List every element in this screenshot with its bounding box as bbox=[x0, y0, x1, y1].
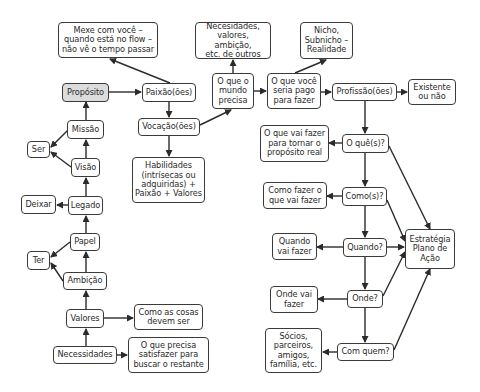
node-o-que-vai-fazer: O que vai fazer para tornar o propósito … bbox=[260, 125, 329, 162]
node-legado: Legado bbox=[68, 196, 103, 215]
node-mexe-com-voce: Mexe com você – quando está no flow – nã… bbox=[58, 22, 158, 58]
node-nicho: Nicho, Subnicho – Realidade bbox=[300, 22, 353, 59]
node-necesidades-outros: Necesidades, valores, ambição, etc. de o… bbox=[195, 22, 271, 59]
node-deixar: Deixar bbox=[21, 195, 56, 214]
node-vocacao: Vocação(ões) bbox=[138, 118, 200, 136]
node-como-as-cosas: Como as cosas devem ser bbox=[134, 304, 203, 330]
node-paixao: Paixão(ões) bbox=[142, 83, 196, 102]
node-existente: Existente ou não bbox=[408, 79, 456, 105]
node-missao: Missão bbox=[67, 120, 104, 139]
node-onde-vai-fazer: Onde vai fazer bbox=[270, 286, 318, 313]
node-como-fazer: Como fazer o que vai fazer bbox=[263, 182, 327, 209]
node-com-quem: Com quem? bbox=[337, 343, 394, 361]
node-visao: Visão bbox=[71, 158, 100, 177]
node-ambicao: Ambição bbox=[63, 272, 107, 290]
node-estrategia: Estratégia Plano de Ação bbox=[405, 229, 455, 269]
node-necessidades: Necessidades bbox=[53, 346, 117, 364]
node-profissao: Profissão(ões) bbox=[332, 83, 397, 101]
node-oques: O quê(s)? bbox=[342, 134, 389, 153]
node-habilidades: Habilidades (intrísecas ou adquiridas) +… bbox=[132, 157, 205, 203]
node-valores: Valores bbox=[66, 309, 104, 328]
node-quando: Quando? bbox=[343, 238, 387, 257]
node-papel: Papel bbox=[70, 233, 100, 251]
purpose-mind-map: Mexe com você – quando está no flow – nã… bbox=[0, 0, 480, 392]
node-socios: Sócios, parceiros, amigos, família, etc. bbox=[265, 328, 322, 373]
node-satisfazer: O que precisa satisfazer para buscar o r… bbox=[128, 337, 209, 373]
node-ser: Ser bbox=[27, 141, 50, 158]
node-mundo-precisa: O que o mundo precisa bbox=[212, 73, 254, 109]
node-onde: Onde? bbox=[347, 290, 383, 308]
node-proposito: Propósito bbox=[62, 83, 109, 102]
node-comos: Como(s)? bbox=[342, 187, 387, 206]
node-ter: Ter bbox=[27, 251, 50, 270]
node-pago-para-fazer: O que você seria pago para fazer bbox=[267, 73, 321, 109]
node-quando-vai-fazer: Quando vai fazer bbox=[272, 233, 317, 260]
